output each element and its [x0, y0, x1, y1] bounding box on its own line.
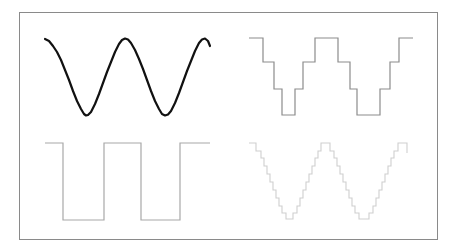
- sine-wave-line: [45, 39, 210, 116]
- quantized-sine-4-level-line: [249, 38, 413, 115]
- waveforms-canvas: [0, 0, 456, 248]
- quantized-sine-fine-line: [249, 143, 407, 219]
- square-wave-line: [45, 143, 210, 220]
